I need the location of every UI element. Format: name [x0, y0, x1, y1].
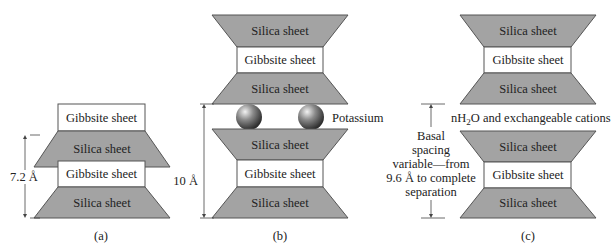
silica-sheet-label: Silica sheet [73, 196, 131, 210]
silica-sheet-label: Silica sheet [251, 196, 309, 210]
gibbsite-sheet-label: Gibbsite sheet [492, 168, 564, 182]
spacing-label: 7.2 Å [10, 170, 38, 184]
panel-caption: (c) [521, 229, 535, 243]
svg-text:9.6 Å to complete: 9.6 Å to complete [386, 171, 476, 185]
gibbsite-sheet-label: Gibbsite sheet [244, 53, 316, 67]
silica-sheet-label: Silica sheet [251, 138, 309, 152]
spacing-label: 10 Å [173, 174, 198, 188]
panel-caption: (b) [273, 229, 288, 243]
panel-b-illite: Silica sheet Gibbsite sheet Silica sheet… [173, 15, 383, 243]
svg-text:variable—from: variable—from [392, 157, 469, 171]
gibbsite-sheet-label: Gibbsite sheet [492, 53, 564, 67]
panel-a-kaolinite: Gibbsite sheet Silica sheet Gibbsite she… [6, 104, 170, 243]
interlayer-label: Potassium [332, 111, 384, 125]
silica-sheet-label: Silica sheet [251, 24, 309, 38]
silica-sheet-label: Silica sheet [499, 140, 557, 154]
gibbsite-sheet-label: Gibbsite sheet [66, 167, 138, 181]
panel-c-montmorillonite: Silica sheet Gibbsite sheet Silica sheet… [386, 15, 611, 243]
silica-sheet-label: Silica sheet [499, 196, 557, 210]
potassium-ion-icon [298, 104, 324, 130]
interlayer-label: nH2O and exchangeable cations [451, 111, 611, 127]
silica-sheet-label: Silica sheet [73, 142, 131, 156]
svg-text:separation: separation [405, 185, 457, 199]
svg-text:Basal: Basal [417, 129, 445, 143]
silica-sheet-label: Silica sheet [251, 82, 309, 96]
panel-caption: (a) [94, 229, 108, 243]
clay-mineral-structure-diagram: Gibbsite sheet Silica sheet Gibbsite she… [0, 0, 615, 251]
svg-text:spacing: spacing [412, 143, 451, 157]
gibbsite-sheet-label: Gibbsite sheet [244, 167, 316, 181]
gibbsite-sheet-label: Gibbsite sheet [66, 111, 138, 125]
basal-spacing-label: Basal spacing variable—from 9.6 Å to com… [386, 129, 476, 199]
silica-sheet-label: Silica sheet [499, 82, 557, 96]
potassium-ion-icon [236, 104, 262, 130]
silica-sheet-label: Silica sheet [499, 24, 557, 38]
